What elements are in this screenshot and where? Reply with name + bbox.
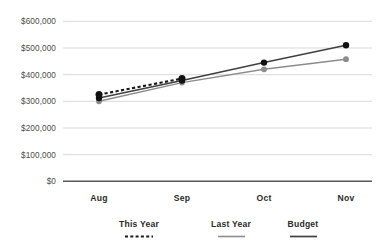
last-year-marker <box>261 66 267 72</box>
legend-label-last-year: Last Year <box>211 219 251 229</box>
y-tick-label: $0 <box>47 177 57 186</box>
y-tick-label: $500,000 <box>21 44 56 53</box>
legend-label-this-year: This Year <box>119 219 159 229</box>
this-year-marker <box>179 75 186 82</box>
chart-canvas: $600,000 $500,000 $400,000 $300,000 $200… <box>0 0 386 251</box>
y-tick-label: $100,000 <box>21 151 56 160</box>
chart-background <box>0 0 386 251</box>
this-year-marker <box>96 91 103 98</box>
last-year-marker <box>343 56 349 62</box>
y-tick-label: $600,000 <box>21 17 56 26</box>
x-tick-label: Nov <box>338 193 355 203</box>
x-tick-label: Oct <box>257 193 272 203</box>
line-chart: $600,000 $500,000 $400,000 $300,000 $200… <box>0 0 386 251</box>
legend-label-budget: Budget <box>288 219 319 229</box>
y-tick-label: $200,000 <box>21 124 56 133</box>
budget-marker <box>343 42 349 48</box>
x-tick-label: Sep <box>174 193 190 203</box>
x-tick-label: Aug <box>90 193 107 203</box>
budget-marker <box>261 59 267 65</box>
y-tick-label: $300,000 <box>21 97 56 106</box>
y-tick-label: $400,000 <box>21 71 56 80</box>
